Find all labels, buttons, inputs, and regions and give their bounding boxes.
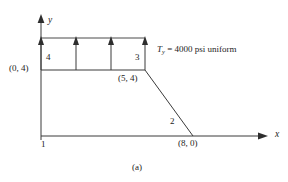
- y-axis-label: y: [48, 16, 52, 26]
- node-label-3: 3: [135, 53, 140, 62]
- figure-container: y x 4 3 2 1 (0, 4) (5, 4) (8, 0) Ty = 40…: [0, 0, 288, 182]
- load-units: psi: [195, 44, 206, 54]
- node-label-2: 2: [170, 117, 175, 126]
- figure-caption: (a): [132, 163, 142, 172]
- y-axis: [38, 14, 45, 140]
- distributed-load-arrows: [38, 36, 148, 70]
- load-annotation-label: Ty = 4000 psi uniform: [157, 45, 237, 55]
- coordinate-label-origin-top: (0, 4): [9, 64, 29, 73]
- x-axis-arrowhead: [258, 132, 268, 139]
- node-label-4: 4: [46, 53, 51, 62]
- coordinate-label-base-right: (8, 0): [178, 139, 198, 148]
- x-axis-label: x: [275, 130, 279, 140]
- load-distribution: uniform: [208, 44, 237, 54]
- coordinate-label-corner-mid: (5, 4): [118, 74, 138, 83]
- y-axis-arrowhead: [38, 14, 45, 23]
- node-label-1: 1: [41, 140, 46, 149]
- load-value: 4000: [174, 44, 192, 54]
- load-arrowhead-2: [73, 36, 79, 45]
- load-arrowhead-1: [38, 36, 44, 45]
- x-axis: [41, 132, 268, 139]
- diagram-canvas: [0, 0, 288, 182]
- load-arrowhead-4: [142, 36, 148, 45]
- body-outline: [41, 70, 193, 136]
- load-arrowhead-3: [108, 36, 114, 45]
